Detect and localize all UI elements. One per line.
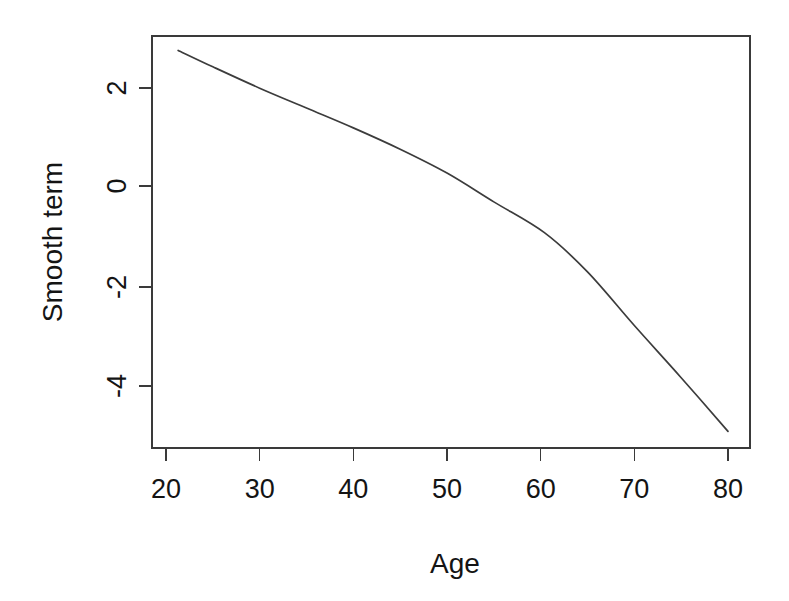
x-tick-label-80: 80: [713, 474, 743, 504]
smooth-term-curve: [178, 50, 728, 431]
x-axis-title: Age: [430, 548, 480, 579]
x-tick-label-30: 30: [245, 474, 275, 504]
x-tick-label-50: 50: [432, 474, 462, 504]
x-axis-ticks: [166, 448, 728, 461]
x-tick-label-40: 40: [338, 474, 368, 504]
x-tick-label-70: 70: [619, 474, 649, 504]
y-axis-ticks: [139, 88, 152, 386]
y-tick-label-2: 2: [102, 80, 132, 95]
x-tick-label-60: 60: [526, 474, 556, 504]
y-tick-label-neg2: -2: [102, 275, 132, 299]
plot-canvas: 20 30 40 50 60 70 80 2 0 -2 -4 Age Smoot…: [0, 0, 789, 601]
y-tick-labels: 2 0 -2 -4: [102, 80, 132, 398]
y-axis-title: Smooth term: [37, 162, 68, 322]
x-tick-labels: 20 30 40 50 60 70 80: [151, 474, 743, 504]
plot-frame: [152, 36, 750, 448]
x-tick-label-20: 20: [151, 474, 181, 504]
y-tick-label-0: 0: [102, 178, 132, 193]
chart-figure: 20 30 40 50 60 70 80 2 0 -2 -4 Age Smoot…: [0, 0, 789, 601]
y-tick-label-neg4: -4: [102, 374, 132, 398]
